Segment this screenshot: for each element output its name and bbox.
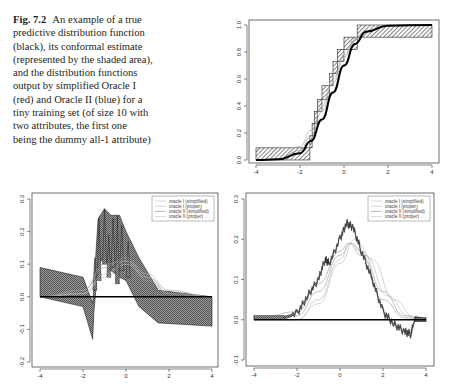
- legend: oracle I (simplified)oracle I (proper)or…: [152, 196, 214, 221]
- x-tick-label: -2: [297, 169, 303, 175]
- x-tick-label: 0: [342, 169, 346, 175]
- plot-area: [254, 219, 426, 338]
- y-tick-label: 0.2: [233, 234, 239, 243]
- y-tick-label: 0.3: [19, 194, 25, 203]
- plot-area: [256, 25, 432, 160]
- x-tick-label: 4: [210, 373, 214, 379]
- x-axis: -4-2024: [251, 368, 428, 378]
- x-tick-label: -2: [80, 373, 86, 379]
- x-tick-label: 2: [386, 169, 390, 175]
- x-tick-label: 0: [338, 372, 342, 378]
- x-tick-label: -2: [294, 372, 300, 378]
- chart-top-right: -4-2024 0.00.20.40.60.81.0: [236, 20, 439, 175]
- conformal-step: [318, 99, 322, 111]
- chart-bottom-right: -4-2024 -0.10.00.10.20.3 oracle I (simpl…: [233, 193, 434, 378]
- x-axis: -4-2024: [37, 369, 214, 379]
- y-tick-label: 0.2: [236, 128, 242, 137]
- y-tick-label: 0.4: [236, 101, 242, 110]
- plot-area: [40, 209, 212, 339]
- y-tick-label: 0.0: [233, 315, 239, 324]
- y-tick-label: 0.1: [19, 259, 25, 268]
- y-tick-label: 1.0: [236, 20, 242, 29]
- x-tick-label: 2: [167, 373, 171, 379]
- conformal-band: [40, 209, 212, 339]
- y-tick-label: 0.1: [233, 275, 239, 284]
- x-axis: -4-2024: [253, 165, 434, 175]
- x-tick-label: -4: [253, 169, 259, 175]
- x-tick-label: 0: [124, 373, 128, 379]
- y-tick-label: 0.3: [233, 194, 239, 203]
- legend: oracle I (simplified)oracle I (proper)or…: [368, 196, 430, 221]
- svg-text:oracle II (proper): oracle II (proper): [385, 214, 419, 219]
- x-tick-label: 4: [424, 372, 428, 378]
- oracle-curve: [254, 243, 426, 319]
- figure-plots: -4-2024 0.00.20.40.60.81.0 -4-2024 -0.2-…: [0, 0, 450, 392]
- x-tick-label: -4: [251, 372, 257, 378]
- conformal-step: [333, 61, 337, 73]
- oracle-curve: [254, 243, 426, 319]
- y-tick-label: 0.2: [19, 227, 25, 236]
- y-tick-label: 0.0: [19, 292, 25, 301]
- y-axis: -0.2-0.10.00.10.20.3: [19, 194, 30, 367]
- y-axis: 0.00.20.40.60.81.0: [236, 20, 247, 164]
- y-tick-label: -0.1: [233, 354, 239, 365]
- y-tick-label: -0.2: [19, 356, 25, 367]
- y-tick-label: 0.6: [236, 74, 242, 83]
- oracle-curve: [254, 243, 426, 319]
- chart-bottom-left: -4-2024 -0.2-0.10.00.10.20.3 oracle I (s…: [19, 193, 218, 379]
- y-tick-label: -0.1: [19, 324, 25, 335]
- x-tick-label: 4: [430, 169, 434, 175]
- y-axis: -0.10.00.10.20.3: [233, 194, 244, 365]
- x-tick-label: -4: [37, 373, 43, 379]
- y-tick-label: 0.0: [236, 155, 242, 164]
- x-tick-label: 2: [381, 372, 385, 378]
- y-tick-label: 0.8: [236, 47, 242, 56]
- svg-text:oracle II (proper): oracle II (proper): [169, 214, 203, 219]
